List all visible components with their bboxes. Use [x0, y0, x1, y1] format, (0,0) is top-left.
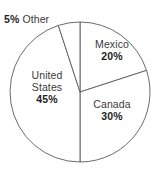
pie-label-canada: Canada 30%	[84, 99, 140, 123]
pie-label-mexico: Mexico 20%	[86, 39, 138, 63]
pie-label-mexico-value: 20%	[86, 51, 138, 63]
pie-label-other-name: Other	[22, 13, 49, 25]
pie-label-other: 5% Other	[4, 9, 82, 27]
pie-label-mexico-name: Mexico	[86, 39, 138, 51]
pie-label-united-states: United States 45%	[20, 70, 74, 105]
pie-label-canada-value: 30%	[84, 111, 140, 123]
pie-label-united-states-value: 45%	[20, 94, 74, 106]
pie-label-united-states-name-line2: States	[20, 82, 74, 94]
pie-label-united-states-name-line1: United	[20, 70, 74, 82]
pie-label-other-value: 5%	[4, 13, 22, 25]
pie-chart: Mexico 20% Canada 30% United States 45% …	[0, 0, 162, 169]
pie-label-canada-name: Canada	[84, 99, 140, 111]
